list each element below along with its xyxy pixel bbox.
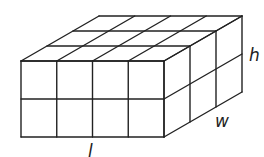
label-length: l [88, 141, 93, 157]
edge-line [57, 16, 135, 61]
edge-line [21, 16, 99, 61]
edge-line [164, 92, 242, 137]
edge-line [93, 16, 171, 61]
label-width: w [215, 111, 229, 131]
label-height: h [249, 45, 260, 65]
edge-line [164, 54, 242, 99]
edge-line [128, 16, 206, 61]
prism-diagram: h w l [0, 0, 264, 157]
edge-line [164, 16, 242, 61]
unit-cube-prism [21, 16, 242, 137]
